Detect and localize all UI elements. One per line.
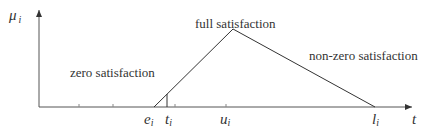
point-e-label: ei [144, 111, 154, 128]
satisfaction-diagram: μi t zero satisfaction full satisfaction… [0, 0, 431, 129]
point-u-label: ui [220, 111, 231, 128]
nonzero-satisfaction-label: non-zero satisfaction [309, 48, 418, 63]
full-satisfaction-label: full satisfaction [195, 16, 276, 31]
point-t-label: ti [165, 111, 172, 128]
y-axis-label: μi [8, 7, 22, 25]
zero-satisfaction-label: zero satisfaction [70, 65, 155, 80]
x-axis-label: t [412, 111, 417, 127]
membership-function [154, 29, 375, 107]
point-l-label: li [372, 111, 379, 128]
